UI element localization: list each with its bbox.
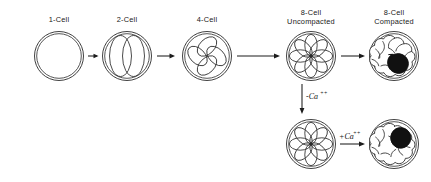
eight-cell-uncompacted-blastomeres: [289, 34, 332, 77]
stage-label-four-cell: 4-Cell: [197, 15, 218, 24]
label-plus-calcium-superscript: ++: [353, 130, 361, 136]
diagram-canvas: 1-Cell 2-Cell 4-Cell 8-Cell Uncompacted …: [0, 0, 431, 182]
stage-label-eight-cell-uncompacted-line1: 8-Cell: [301, 8, 322, 17]
embryo-two-cell: [103, 32, 152, 81]
embryo-cleavage-diagram: 1-Cell 2-Cell 4-Cell 8-Cell Uncompacted …: [0, 0, 431, 182]
eight-cell-decompacted-blastomeres: [289, 122, 332, 165]
arrow-2to4: [157, 54, 175, 59]
stage-label-eight-cell-compacted-line2: Compacted: [374, 17, 414, 26]
embryo-eight-cell-recompacted: [370, 120, 419, 169]
arrow-1to2: [88, 54, 99, 59]
stage-label-eight-cell-compacted-line1: 8-Cell: [384, 8, 405, 17]
embryo-eight-cell-decompacted: [287, 120, 336, 169]
arrow-8uncomp-to-8comp: [341, 54, 365, 59]
label-minus-calcium-superscript: ++: [320, 90, 328, 96]
label-plus-calcium-base: +Ca: [339, 132, 354, 141]
embryo-eight-cell-compacted: [370, 32, 419, 81]
arrow-minus-calcium: -Ca ++: [300, 84, 328, 114]
stage-label-one-cell: 1-Cell: [49, 15, 70, 24]
arrow-plus-calcium: +Ca ++: [339, 130, 365, 147]
embryo-eight-cell-uncompacted: [287, 32, 336, 81]
label-minus-calcium-base: -Ca: [306, 92, 318, 101]
stage-label-two-cell: 2-Cell: [117, 15, 138, 24]
embryo-one-cell: [35, 32, 84, 81]
stage-label-eight-cell-uncompacted-line2: Uncompacted: [287, 17, 335, 26]
arrow-4to8: [237, 54, 280, 59]
embryo-four-cell: [183, 32, 232, 81]
four-cell-blastomeres: [184, 33, 230, 79]
